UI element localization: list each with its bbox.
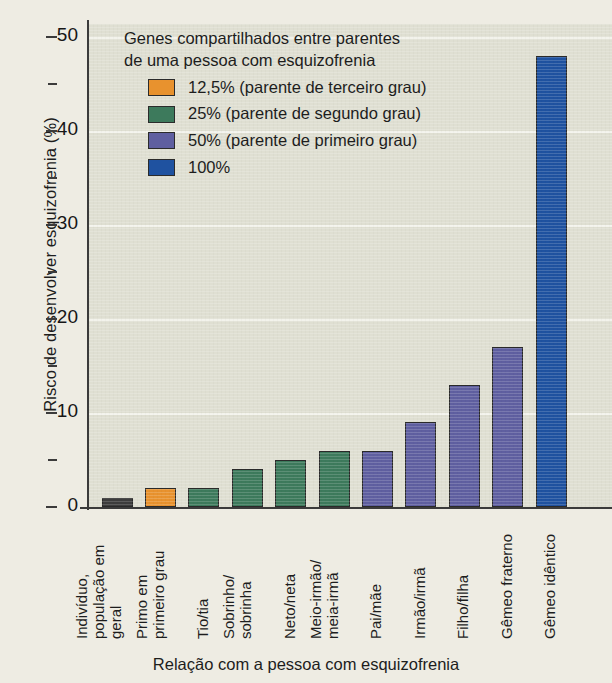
legend-item[interactable]: 12,5% (parente de terceiro grau) xyxy=(124,77,426,99)
y-tick-label: 20 xyxy=(42,306,78,328)
x-axis-title: Relação com a pessoa com esquizofrenia xyxy=(0,655,612,674)
x-tick-label: Gêmeo fraterno xyxy=(515,509,532,639)
y-tick-major xyxy=(46,130,57,132)
y-tick-major xyxy=(46,318,57,320)
gridline xyxy=(89,319,612,321)
y-tick-label: 0 xyxy=(42,494,78,516)
legend-swatch xyxy=(148,159,175,176)
y-tick-minor xyxy=(48,459,57,461)
legend-title: Genes compartilhados entre parentes de u… xyxy=(124,28,426,72)
legend-label: 50% (parente de primeiro grau) xyxy=(188,130,417,152)
legend-items: 12,5% (parente de terceiro grau)25% (par… xyxy=(124,77,426,179)
bar[interactable] xyxy=(362,451,393,507)
bar[interactable] xyxy=(102,498,133,507)
y-tick-minor xyxy=(48,83,57,85)
bar[interactable] xyxy=(449,385,480,507)
x-tick-label: Filho/filha xyxy=(471,509,488,639)
bar[interactable] xyxy=(319,451,350,507)
x-axis-tick-labels: Indivíduo, população em geralPrimo em pr… xyxy=(0,509,612,649)
bar[interactable] xyxy=(145,488,176,507)
y-tick-minor xyxy=(48,271,57,273)
legend-label: 100% xyxy=(188,157,230,179)
y-tick-major xyxy=(46,506,57,508)
bar[interactable] xyxy=(536,56,567,507)
bar[interactable] xyxy=(492,347,523,507)
y-tick-label: 40 xyxy=(42,118,78,140)
legend-item[interactable]: 25% (parente de segundo grau) xyxy=(124,103,426,125)
gridline xyxy=(89,413,612,415)
legend-swatch xyxy=(148,106,175,123)
bar[interactable] xyxy=(275,460,306,507)
legend-item[interactable]: 100% xyxy=(124,157,426,179)
y-tick-label: 10 xyxy=(42,400,78,422)
legend-item[interactable]: 50% (parente de primeiro grau) xyxy=(124,130,426,152)
y-tick-label: 50 xyxy=(42,24,78,46)
bar[interactable] xyxy=(232,469,263,507)
legend-label: 25% (parente de segundo grau) xyxy=(188,103,421,125)
gridline xyxy=(89,225,612,227)
legend-swatch xyxy=(148,132,175,149)
bar[interactable] xyxy=(405,422,436,507)
x-tick-label: Pai/mãe xyxy=(384,509,401,639)
bar[interactable] xyxy=(188,488,219,507)
y-tick-minor xyxy=(48,177,57,179)
legend-swatch xyxy=(148,79,175,96)
x-tick-label: Irmão/irmã xyxy=(428,509,445,639)
y-tick-major xyxy=(46,412,57,414)
y-tick-label: 30 xyxy=(42,212,78,234)
chart-legend: Genes compartilhados entre parentes de u… xyxy=(124,28,426,179)
legend-label: 12,5% (parente de terceiro grau) xyxy=(188,77,426,99)
x-tick-label: Gêmeo idêntico xyxy=(558,509,575,639)
y-tick-major xyxy=(46,224,57,226)
chart-figure: Risco de desenvolver esquizofrenia (%) 0… xyxy=(0,0,612,683)
y-tick-major xyxy=(46,36,57,38)
x-axis-line xyxy=(80,507,612,509)
y-tick-minor xyxy=(48,365,57,367)
y-axis-line xyxy=(87,20,89,510)
